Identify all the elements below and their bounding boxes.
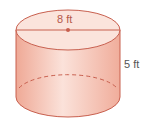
height-label: 5 ft — [124, 58, 139, 70]
diameter-label: 8 ft — [57, 13, 72, 25]
center-point — [66, 28, 70, 32]
